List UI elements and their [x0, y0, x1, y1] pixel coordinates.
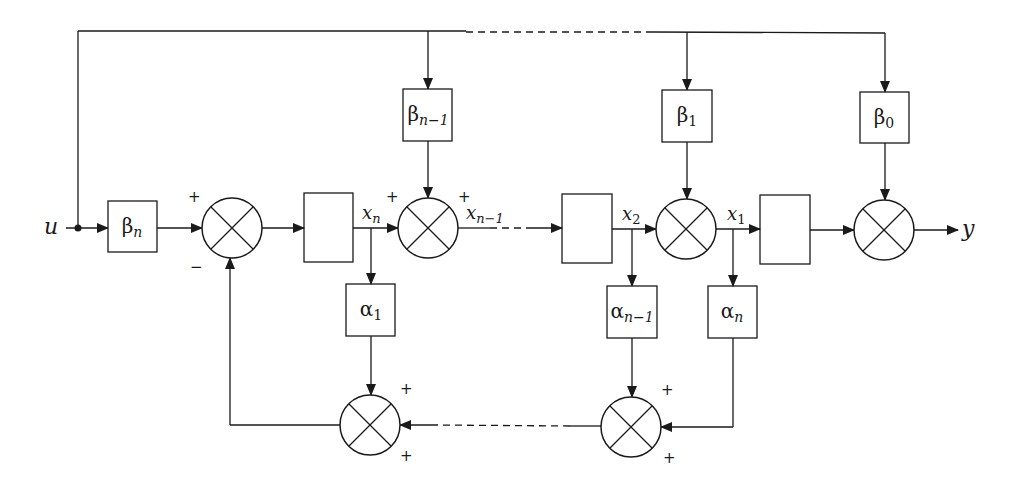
- state-x-n-minus-1-label: xn−1: [466, 202, 504, 226]
- sign-plus: +: [663, 449, 676, 467]
- gain-beta-1-label: β1: [677, 103, 697, 129]
- summing-junction-feedback-1: [340, 395, 400, 455]
- integrator-block-2: [562, 194, 612, 263]
- summing-junction-3: [656, 199, 716, 259]
- input-label: u: [44, 214, 58, 239]
- diagram-wires: [0, 0, 1013, 491]
- gain-alpha-1-label: α1: [360, 297, 382, 323]
- summing-junction-feedback-2: [601, 397, 661, 457]
- output-label: y: [962, 216, 974, 241]
- sign-plus: +: [386, 188, 399, 206]
- gain-beta-0-label: β0: [874, 105, 894, 131]
- integrator-block-1: [304, 193, 353, 262]
- summing-junction-2: [398, 198, 458, 258]
- summing-junction-1: [202, 198, 262, 258]
- gain-alpha-n-minus-1-label: αn−1: [610, 299, 653, 325]
- sign-plus: +: [400, 380, 413, 398]
- gain-beta-n-minus-1-label: βn−1: [407, 102, 448, 128]
- block-diagram: u y βn βn−1 β1 β0 α1 αn−1 αn xn xn−1 x2 …: [0, 0, 1013, 491]
- summing-junction-output: [854, 200, 914, 260]
- sign-plus: +: [661, 381, 674, 399]
- sign-minus: −: [190, 258, 203, 276]
- integrator-block-3: [760, 195, 810, 264]
- state-x-1-label: x1: [727, 203, 745, 227]
- input-node: [66, 225, 108, 232]
- gain-alpha-n-label: αn: [721, 299, 744, 325]
- gain-beta-n-label: βn: [122, 214, 143, 240]
- sign-plus: +: [458, 188, 471, 206]
- state-x-2-label: x2: [622, 203, 640, 227]
- sign-plus: +: [400, 447, 413, 465]
- sign-plus: +: [188, 188, 201, 206]
- state-x-n-label: xn: [362, 202, 381, 226]
